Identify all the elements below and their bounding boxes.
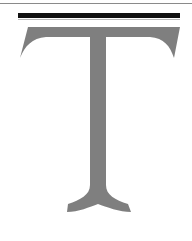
letter-t-icon [0, 0, 192, 241]
